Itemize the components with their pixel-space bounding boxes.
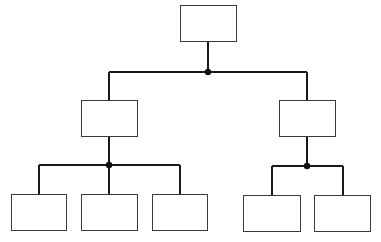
node-mid-left bbox=[81, 100, 138, 137]
node-leaf-2 bbox=[81, 194, 138, 231]
node-mid-right bbox=[279, 100, 336, 137]
junction-dot-root bbox=[205, 69, 211, 75]
node-leaf-4 bbox=[243, 195, 301, 232]
node-leaf-5 bbox=[314, 195, 371, 232]
org-chart-diagram bbox=[0, 0, 381, 242]
node-root bbox=[180, 5, 237, 42]
junction-dot-mid-right bbox=[304, 163, 310, 169]
node-leaf-1 bbox=[11, 194, 67, 231]
junction-dot-mid-left bbox=[106, 162, 112, 168]
node-leaf-3 bbox=[152, 194, 208, 231]
